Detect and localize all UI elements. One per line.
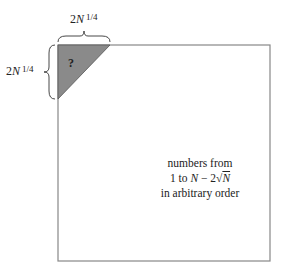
diagram-canvas bbox=[0, 0, 283, 275]
line2-mid: − 2√ bbox=[198, 172, 222, 184]
left-label: 2N1/4 bbox=[6, 64, 34, 79]
line2-var2: N bbox=[222, 172, 230, 184]
line2-prefix: 1 to bbox=[170, 172, 190, 184]
center-line-1: numbers from bbox=[130, 156, 270, 171]
center-line-3: in arbitrary order bbox=[130, 186, 270, 201]
top-label-var: N bbox=[76, 12, 84, 26]
top-label-exp: 1/4 bbox=[86, 12, 98, 22]
left-label-exp: 1/4 bbox=[22, 64, 34, 74]
center-line-2: 1 to N − 2√N bbox=[130, 171, 270, 186]
outer-square bbox=[58, 45, 270, 261]
shaded-triangle bbox=[58, 45, 110, 99]
left-brace bbox=[44, 45, 55, 99]
left-label-var: N bbox=[12, 64, 20, 78]
center-text: numbers from 1 to N − 2√N in arbitrary o… bbox=[130, 156, 270, 201]
top-label: 2N1/4 bbox=[70, 12, 98, 27]
triangle-label: ? bbox=[68, 56, 74, 71]
line2-var: N bbox=[190, 172, 198, 184]
top-brace bbox=[58, 31, 110, 42]
